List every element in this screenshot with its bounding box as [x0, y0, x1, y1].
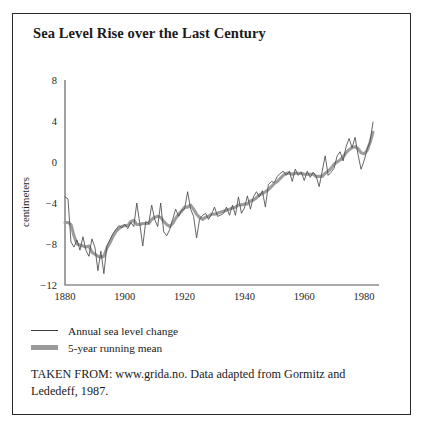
legend-label-running-mean: 5-year running mean — [68, 342, 162, 354]
axis-lines — [65, 80, 379, 285]
legend-swatch-annual-icon — [31, 330, 58, 331]
y-tick-4: 4 — [52, 116, 58, 127]
y-tick--12: −12 — [41, 280, 57, 291]
y-axis-tick-labels: 840−4−8−12 — [41, 75, 58, 291]
y-axis-title: centimeters — [19, 177, 31, 227]
sea-level-line-chart: 840−4−8−12 188019001920194019601980 cent… — [13, 52, 412, 314]
x-tick-1900: 1900 — [114, 291, 135, 302]
x-tick-1920: 1920 — [174, 291, 195, 302]
chart-plot-area: 840−4−8−12 188019001920194019601980 cent… — [13, 52, 412, 314]
chart-legend: Annual sea level change 5-year running m… — [31, 322, 391, 356]
legend-item-annual: Annual sea level change — [31, 322, 391, 339]
figure-title: Sea Level Rise over the Last Century — [33, 25, 266, 42]
x-tick-1980: 1980 — [354, 291, 375, 302]
y-tick-0: 0 — [52, 157, 57, 168]
series-annual-change — [65, 122, 373, 274]
y-tick--4: −4 — [46, 198, 58, 209]
legend-item-running-mean: 5-year running mean — [31, 339, 391, 356]
x-tick-1880: 1880 — [55, 291, 76, 302]
x-axis-tick-labels: 188019001920194019601980 — [55, 291, 375, 302]
figure-frame: Sea Level Rise over the Last Century 840… — [12, 13, 411, 415]
y-tick--8: −8 — [46, 239, 57, 250]
series-running-mean — [65, 132, 373, 257]
x-tick-1940: 1940 — [234, 291, 255, 302]
legend-swatch-running-mean-icon — [31, 345, 58, 349]
legend-label-annual: Annual sea level change — [68, 325, 178, 337]
y-tick-8: 8 — [52, 75, 57, 86]
x-tick-1960: 1960 — [294, 291, 315, 302]
source-attribution-note: TAKEN FROM: www.grida.no. Data adapted f… — [31, 366, 383, 400]
